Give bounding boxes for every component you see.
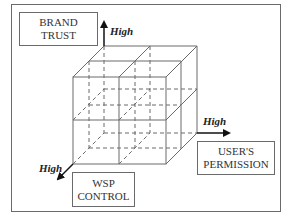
vertical-high-label: High	[110, 25, 133, 37]
users-permission-line2: PERMISSION	[203, 158, 268, 171]
brand-trust-line2: TRUST	[41, 29, 76, 42]
wsp-control-line1: WSP	[92, 177, 115, 190]
wsp-control-label: WSP CONTROL	[72, 172, 135, 207]
users-permission-label: USER'S PERMISSION	[197, 141, 275, 175]
brand-trust-label: BRAND TRUST	[19, 12, 98, 46]
wsp-control-line2: CONTROL	[78, 190, 130, 203]
users-permission-line1: USER'S	[218, 145, 254, 158]
brand-trust-line1: BRAND	[39, 16, 78, 29]
horizontal-high-label: High	[203, 115, 226, 127]
depth-high-label: High	[39, 162, 62, 174]
